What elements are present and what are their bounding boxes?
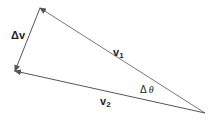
v2-label: v2: [100, 95, 111, 109]
v1-subscript: 1: [119, 51, 123, 60]
theta-symbol: θ: [149, 84, 154, 95]
delta-v-text: Δv: [11, 29, 25, 41]
delta-v-label: Δv: [11, 29, 25, 41]
delta-symbol: Δ: [140, 84, 147, 95]
delta-theta-label: Δ θ: [140, 84, 154, 95]
v1-arrow: [40, 8, 205, 113]
v2-subscript: 2: [106, 100, 110, 109]
v1-label: v1: [113, 46, 124, 60]
